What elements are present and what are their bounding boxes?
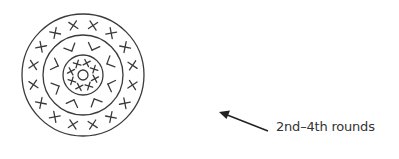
center-ring xyxy=(78,70,88,80)
round-4-x-stitches xyxy=(29,21,137,129)
crochet-diagram xyxy=(0,0,399,159)
annotation-arrow xyxy=(219,111,268,132)
round-3-ring xyxy=(43,35,123,115)
annotation-label: 2nd–4th rounds xyxy=(276,119,375,134)
round-2-ring xyxy=(63,55,103,95)
round-3-v-stitches xyxy=(51,43,116,108)
round-4-ring xyxy=(22,14,144,136)
round-2-x-stitches xyxy=(68,60,99,91)
